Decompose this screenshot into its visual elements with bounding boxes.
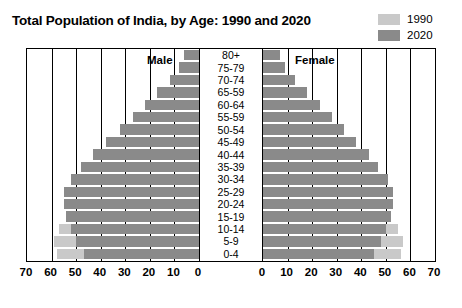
bar-row bbox=[263, 86, 435, 98]
bar-row bbox=[27, 223, 199, 235]
bar-row bbox=[27, 74, 199, 86]
age-group-label: 40-44 bbox=[200, 150, 262, 161]
bar-row bbox=[263, 173, 435, 185]
bar-row bbox=[263, 186, 435, 198]
age-group-label: 60-64 bbox=[200, 100, 262, 111]
bar-2020 bbox=[84, 249, 199, 259]
bar-2020 bbox=[263, 249, 374, 259]
age-group-label: 75-79 bbox=[200, 63, 262, 74]
bar-2020 bbox=[71, 174, 199, 184]
bar-row bbox=[27, 186, 199, 198]
x-tick-label: 50 bbox=[378, 266, 391, 278]
bar-2020 bbox=[170, 75, 199, 85]
bar-row bbox=[263, 235, 435, 247]
x-tick-label: 20 bbox=[142, 266, 155, 278]
bar-2020 bbox=[263, 75, 295, 85]
bar-2020 bbox=[263, 100, 320, 110]
gridline bbox=[52, 49, 53, 261]
age-group-label: 25-29 bbox=[200, 187, 262, 198]
bar-row bbox=[263, 148, 435, 160]
x-tick-label: 0 bbox=[259, 266, 265, 278]
age-group-label: 45-49 bbox=[200, 137, 262, 148]
population-pyramid-chart: Total Population of India, by Age: 1990 … bbox=[0, 0, 462, 308]
legend-item-1990: 1990 bbox=[378, 12, 433, 26]
bar-2020 bbox=[184, 50, 199, 60]
bar-2020 bbox=[133, 112, 199, 122]
bar-row bbox=[263, 49, 435, 61]
bar-row bbox=[27, 235, 199, 247]
bar-row bbox=[27, 86, 199, 98]
bar-2020 bbox=[263, 211, 391, 221]
bar-row bbox=[27, 136, 199, 148]
x-tick-label: 40 bbox=[354, 266, 367, 278]
x-tick-label: 30 bbox=[118, 266, 131, 278]
bar-2020 bbox=[120, 124, 199, 134]
x-tick-label: 40 bbox=[93, 266, 106, 278]
bar-2020 bbox=[263, 62, 285, 72]
age-group-label: 10-14 bbox=[200, 224, 262, 235]
legend-label-2020: 2020 bbox=[407, 30, 433, 41]
bar-2020 bbox=[179, 62, 199, 72]
bar-2020 bbox=[81, 162, 199, 172]
bar-2020 bbox=[64, 199, 199, 209]
bar-2020 bbox=[263, 149, 369, 159]
bar-2020 bbox=[263, 236, 381, 246]
bar-row bbox=[27, 198, 199, 210]
bar-2020 bbox=[263, 162, 378, 172]
bar-2020 bbox=[263, 199, 393, 209]
age-group-label: 30-34 bbox=[200, 174, 262, 185]
bar-row bbox=[263, 61, 435, 73]
age-group-label: 5-9 bbox=[200, 236, 262, 247]
age-group-label: 55-59 bbox=[200, 112, 262, 123]
bar-row bbox=[263, 210, 435, 222]
bar-row bbox=[27, 148, 199, 160]
x-tick-label: 70 bbox=[428, 266, 441, 278]
legend-label-1990: 1990 bbox=[407, 14, 433, 25]
bar-2020 bbox=[263, 174, 388, 184]
x-tick-label: 10 bbox=[167, 266, 180, 278]
bar-2020 bbox=[66, 211, 199, 221]
bar-2020 bbox=[263, 124, 344, 134]
gridline bbox=[410, 49, 411, 261]
bar-row bbox=[27, 161, 199, 173]
bar-row bbox=[27, 111, 199, 123]
x-tick-label: 0 bbox=[195, 266, 201, 278]
bar-2020 bbox=[263, 50, 280, 60]
chart-title: Total Population of India, by Age: 1990 … bbox=[12, 13, 311, 28]
bar-2020 bbox=[263, 187, 393, 197]
x-tick-label: 10 bbox=[280, 266, 293, 278]
bar-row bbox=[27, 248, 199, 260]
bar-2020 bbox=[263, 137, 356, 147]
bar-row bbox=[27, 123, 199, 135]
age-group-label: 0-4 bbox=[200, 249, 262, 260]
legend-swatch-2020-icon bbox=[378, 30, 400, 41]
male-panel-label: Male bbox=[147, 54, 173, 66]
bar-2020 bbox=[157, 87, 199, 97]
x-axis-ticks: 706050403020100010203040506070 bbox=[0, 266, 462, 286]
bar-row bbox=[263, 223, 435, 235]
bar-row bbox=[27, 210, 199, 222]
bar-2020 bbox=[93, 149, 199, 159]
bar-row bbox=[263, 74, 435, 86]
x-tick-label: 30 bbox=[329, 266, 342, 278]
age-group-label: 50-54 bbox=[200, 125, 262, 136]
bar-2020 bbox=[76, 236, 199, 246]
bar-row bbox=[263, 136, 435, 148]
bar-row bbox=[263, 198, 435, 210]
bar-row bbox=[263, 161, 435, 173]
x-tick-label: 50 bbox=[69, 266, 82, 278]
x-tick-label: 20 bbox=[305, 266, 318, 278]
bar-2020 bbox=[106, 137, 199, 147]
bar-row bbox=[263, 248, 435, 260]
bar-row bbox=[263, 111, 435, 123]
plot-area: 80+75-7970-7465-5960-6455-5950-5445-4940… bbox=[26, 48, 436, 262]
x-tick-label: 60 bbox=[44, 266, 57, 278]
bar-2020 bbox=[263, 87, 307, 97]
bar-row bbox=[27, 99, 199, 111]
male-panel bbox=[27, 49, 199, 261]
bar-2020 bbox=[263, 112, 332, 122]
age-group-label: 80+ bbox=[200, 50, 262, 61]
chart-legend: 1990 2020 bbox=[378, 12, 433, 44]
age-group-label: 15-19 bbox=[200, 212, 262, 223]
bar-2020 bbox=[64, 187, 199, 197]
